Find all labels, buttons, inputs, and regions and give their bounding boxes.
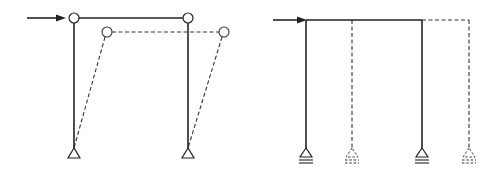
left-arrow-head-icon — [56, 15, 66, 22]
right-roller-support-2-icon — [415, 148, 429, 163]
right-load-arrow — [273, 17, 307, 24]
left-displaced-hinge-1-icon — [102, 27, 112, 37]
portal-frame-diagram — [0, 0, 495, 176]
left-displaced-hinge-2-icon — [219, 27, 229, 37]
left-displaced-column-2 — [188, 37, 222, 148]
right-panel — [273, 17, 476, 164]
left-pin-support-2-icon — [182, 148, 194, 158]
left-hinge-1-icon — [69, 13, 79, 23]
left-panel — [27, 13, 229, 158]
right-displaced-roller-support-1-icon — [345, 148, 359, 163]
left-pin-support-1-icon — [68, 148, 80, 158]
right-displaced-roller-support-2-icon — [462, 148, 476, 163]
left-displaced-column-1 — [74, 37, 105, 148]
left-load-arrow — [27, 15, 66, 22]
left-hinge-2-icon — [183, 13, 193, 23]
right-roller-support-1-icon — [299, 148, 313, 163]
